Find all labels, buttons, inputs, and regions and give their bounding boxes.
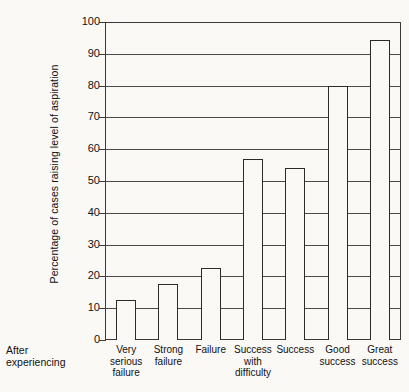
x-axis-tick-label: Success bbox=[274, 344, 316, 356]
x-axis-label-line: success bbox=[316, 356, 358, 368]
x-axis-label-line: Very bbox=[105, 344, 147, 356]
y-axis-tick-label: 50 bbox=[58, 175, 100, 186]
x-axis-label-line: failure bbox=[147, 356, 189, 368]
y-axis-tick-mark bbox=[99, 340, 106, 341]
y-axis-tick-mark bbox=[99, 149, 106, 150]
y-axis-tick-label: 10 bbox=[58, 302, 100, 313]
y-axis-tick-mark bbox=[99, 213, 106, 214]
after-experiencing-line: After bbox=[6, 344, 102, 356]
y-axis-tick-label: 20 bbox=[58, 270, 100, 281]
y-axis-tick-labels: 0102030405060708090100 bbox=[58, 0, 100, 392]
bar bbox=[201, 268, 221, 340]
x-axis-tick-label: Successwithdifficulty bbox=[232, 344, 274, 379]
bar-chart-figure: Percentage of cases raising level of asp… bbox=[0, 0, 409, 392]
x-axis-tick-label: Strongfailure bbox=[147, 344, 189, 367]
x-axis-label-line: Success bbox=[274, 344, 316, 356]
y-axis-tick-mark bbox=[99, 308, 106, 309]
x-axis-label-line: Great bbox=[359, 344, 401, 356]
bar bbox=[158, 284, 178, 340]
bar bbox=[370, 40, 390, 341]
x-axis-label-line: Success bbox=[232, 344, 274, 356]
x-axis-label-line: difficulty bbox=[232, 367, 274, 379]
x-axis-tick-labels: VeryseriousfailureStrongfailureFailureSu… bbox=[105, 344, 401, 392]
x-axis-label-line: success bbox=[359, 356, 401, 368]
x-axis-tick-label: Failure bbox=[190, 344, 232, 356]
y-axis-tick-label: 60 bbox=[58, 143, 100, 154]
y-axis-tick-label: 70 bbox=[58, 111, 100, 122]
y-axis-tick-mark bbox=[99, 22, 106, 23]
x-axis-tick-label: Veryseriousfailure bbox=[105, 344, 147, 379]
x-axis-label-line: Good bbox=[316, 344, 358, 356]
y-axis-tick-label: 30 bbox=[58, 239, 100, 250]
y-axis-tick-label: 80 bbox=[58, 80, 100, 91]
x-axis-label-line: with bbox=[232, 356, 274, 368]
y-axis-tick-mark bbox=[99, 117, 106, 118]
bar bbox=[328, 86, 348, 340]
x-axis-label-line: failure bbox=[105, 367, 147, 379]
bar-series bbox=[105, 22, 401, 340]
bar bbox=[243, 159, 263, 340]
after-experiencing-label: Afterexperiencing bbox=[6, 344, 102, 368]
y-axis-tick-label: 40 bbox=[58, 207, 100, 218]
after-experiencing-line: experiencing bbox=[6, 356, 102, 368]
y-axis-tick-mark bbox=[99, 276, 106, 277]
x-axis-label-line: Strong bbox=[147, 344, 189, 356]
y-axis-tick-label: 100 bbox=[58, 16, 100, 27]
y-axis-tick-mark bbox=[99, 54, 106, 55]
bar bbox=[285, 168, 305, 340]
x-axis-label-line: Failure bbox=[190, 344, 232, 356]
bar bbox=[116, 300, 136, 340]
y-axis-tick-mark bbox=[99, 245, 106, 246]
x-axis-tick-label: Goodsuccess bbox=[316, 344, 358, 367]
y-axis-tick-mark bbox=[99, 86, 106, 87]
y-axis-tick-mark bbox=[99, 181, 106, 182]
x-axis-tick-label: Greatsuccess bbox=[359, 344, 401, 367]
y-axis-tick-label: 90 bbox=[58, 48, 100, 59]
x-axis-label-line: serious bbox=[105, 356, 147, 368]
